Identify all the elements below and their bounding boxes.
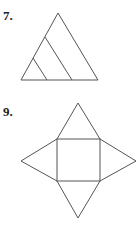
figures: [0, 0, 139, 238]
pyramid-net-figure: [21, 103, 136, 218]
triangle-figure: [21, 13, 98, 80]
